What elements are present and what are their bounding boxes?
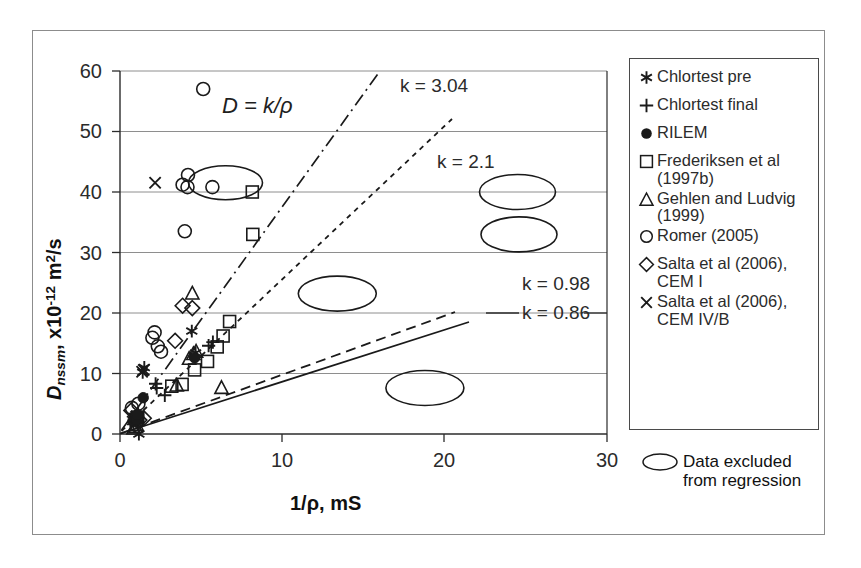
x-axis-post: , mS	[319, 492, 361, 514]
square-marker-icon	[637, 152, 656, 171]
y-tick-label-40: 40	[60, 182, 102, 202]
legend-label: Gehlen and Ludvig (1999)	[657, 190, 796, 226]
triangle-marker-icon	[637, 190, 656, 209]
legend-item-chlortest-pre[interactable]: Chlortest pre	[637, 68, 814, 87]
k-annotation-2-1: k = 2.1	[437, 152, 495, 171]
legend-item-salta-cem-ivb[interactable]: Salta et al (2006), CEM IV/B	[637, 293, 814, 329]
legend-label: Chlortest final	[657, 96, 758, 114]
x-axis-rho-symbol: ρ	[307, 492, 319, 514]
k-annotation-0-86: k = 0.86	[522, 303, 590, 322]
y-axis-exponent: -12	[43, 286, 58, 306]
excluded-note-label: Data excluded from regression	[683, 452, 801, 490]
legend-item-romer[interactable]: Romer (2005)	[637, 227, 814, 246]
legend-label: Frederiksen et al (1997b)	[657, 152, 780, 188]
legend-item-frederiksen[interactable]: Frederiksen et al (1997b)	[637, 152, 814, 188]
diamond-marker-icon	[637, 255, 656, 274]
x-tick-label-0: 0	[100, 450, 140, 470]
legend-label: Romer (2005)	[657, 227, 759, 245]
legend-item-chlortest-final[interactable]: Chlortest final	[637, 96, 814, 115]
ellipse-marker-icon	[640, 452, 680, 472]
legend-item-salta-cem-i[interactable]: Salta et al (2006), CEM I	[637, 255, 814, 291]
cross-marker-icon	[637, 293, 656, 312]
filled-circle-marker-icon	[637, 124, 656, 143]
asterisk-marker-icon	[637, 68, 656, 87]
y-tick-label-50: 50	[60, 121, 102, 141]
x-axis-title: 1/ρ, mS	[290, 493, 361, 513]
circle-marker-icon	[637, 227, 656, 246]
k-annotation-0-98: k = 0.98	[522, 274, 590, 293]
legend-label: Salta et al (2006), CEM I	[657, 255, 787, 291]
y-axis-exponent-2: 2	[43, 255, 58, 263]
y-axis-tail: m	[43, 263, 65, 286]
y-axis-title: Dnssm, x10-12 m2/s	[44, 238, 67, 400]
x-axis-pre: 1/	[290, 492, 307, 514]
y-axis-mid: , x10	[43, 306, 65, 350]
y-axis-symbol: D	[43, 386, 65, 400]
legend-label: RILEM	[657, 124, 707, 142]
x-tick-label-20: 20	[424, 450, 464, 470]
equation-annotation: D = k/ρ	[222, 95, 293, 117]
legend-label: Chlortest pre	[657, 68, 751, 86]
x-tick-label-30: 30	[587, 450, 627, 470]
excluded-data-note: Data excluded from regression	[640, 452, 825, 490]
y-tick-label-60: 60	[60, 61, 102, 81]
plus-marker-icon	[637, 96, 656, 115]
legend-box: Chlortest pre Chlortest final RILEM Fred…	[629, 58, 819, 430]
legend-item-gehlen-ludvig[interactable]: Gehlen and Ludvig (1999)	[637, 190, 814, 226]
y-axis-tail-2: /s	[43, 238, 65, 255]
legend-label: Salta et al (2006), CEM IV/B	[657, 293, 787, 329]
k-annotation-3-04: k = 3.04	[400, 76, 468, 95]
legend-item-rilem[interactable]: RILEM	[637, 124, 814, 143]
y-tick-label-0: 0	[60, 424, 102, 444]
x-tick-label-10: 10	[262, 450, 302, 470]
y-axis-subscript: nssm	[53, 350, 68, 386]
